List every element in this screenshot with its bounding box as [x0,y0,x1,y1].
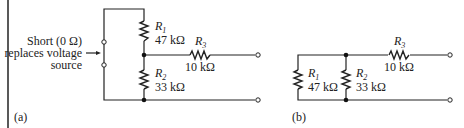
panel-a-label: (a) [14,110,27,124]
short-terminal-top [102,40,106,44]
node-a-bottom [142,98,147,103]
r3-a-name: R3 [194,34,206,50]
r1-a-value: 47 kΩ [155,33,185,47]
panel-b: R1 47 kΩ R2 33 kΩ R3 10 kΩ (b) [292,34,452,124]
wire-a-top [104,9,144,42]
resistor-r2-b [342,70,350,89]
output-terminal-a-bottom [256,98,260,102]
r3-b-value: 10 kΩ [384,60,414,74]
node-b-bottom [344,98,349,103]
output-terminal-b-bottom [448,98,452,102]
output-terminal-a-top [256,53,260,57]
arrow-head-icon [96,51,101,55]
resistor-r1-a [140,21,148,41]
r2-b-value: 33 kΩ [356,80,386,94]
annotation-line-3: source [51,58,82,72]
panel-b-label: (b) [292,110,306,124]
r3-a-value: 10 kΩ [185,60,215,74]
wire-b-top-left [298,55,447,70]
resistor-r3-a [190,51,210,59]
r2-a-value: 33 kΩ [155,80,185,94]
circuit-figure: Short (0 Ω) replaces voltage source R1 4… [0,0,464,128]
output-terminal-b-top [448,53,452,57]
resistor-r1-b [294,70,302,89]
r1-b-value: 47 kΩ [308,80,338,94]
resistor-r2-a [140,70,148,89]
short-terminal-bottom [102,63,106,67]
r3-b-name: R3 [393,34,405,50]
node-b-top [344,53,349,58]
panel-a: Short (0 Ω) replaces voltage source R1 4… [4,9,260,124]
node-a-mid [142,53,147,58]
